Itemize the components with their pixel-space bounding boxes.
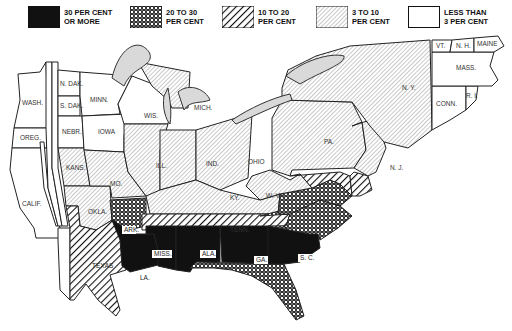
- state-label: IOWA: [98, 128, 116, 135]
- svg-text:ARK.: ARK.: [124, 226, 139, 233]
- svg-text:GA.: GA.: [256, 256, 267, 263]
- state-label: CONN.: [436, 100, 457, 107]
- state-label: R. I.: [466, 92, 478, 99]
- state-label: VT.: [436, 42, 446, 49]
- state-label: MICH.: [194, 104, 213, 111]
- state-label: PA.: [324, 138, 334, 145]
- svg-text:ALA.: ALA.: [202, 250, 216, 257]
- svg-text:LA.: LA.: [140, 274, 150, 281]
- svg-text:TENN.: TENN.: [230, 226, 250, 233]
- state-label: OKLA.: [88, 208, 107, 215]
- state-label: N. H.: [456, 42, 471, 49]
- state-label: N. DAK.: [60, 80, 84, 87]
- state-label: NEBR.: [62, 128, 82, 135]
- state-label: N. J.: [390, 164, 404, 171]
- state-label: N. Y.: [402, 84, 416, 91]
- state-ohio: [196, 114, 252, 190]
- state-pa: [272, 100, 366, 176]
- state-ariz-nmex: [58, 228, 70, 300]
- state-label: OREG.: [20, 134, 41, 141]
- state-wash: [14, 62, 48, 128]
- state-label: KANS.: [66, 164, 86, 171]
- state-label: ILL.: [156, 162, 167, 169]
- state-label: WASH.: [22, 99, 43, 106]
- svg-text:MISS.: MISS.: [154, 250, 172, 257]
- state-label: OHIO: [248, 158, 265, 165]
- svg-text:S. C.: S. C.: [300, 254, 315, 261]
- state-label: MASS.: [456, 64, 476, 71]
- state-fla: [190, 262, 304, 320]
- state-label: IND.: [206, 160, 219, 167]
- state-label: CALIF.: [22, 200, 42, 207]
- state-label: MAINE: [477, 40, 498, 47]
- state-label: KY.: [230, 194, 240, 201]
- state-label: MO.: [110, 180, 122, 187]
- state-conn: [432, 86, 466, 130]
- state-label: W. VA.: [266, 192, 286, 199]
- state-label: MINN.: [90, 96, 109, 103]
- state-label: TEXAS: [92, 262, 114, 269]
- state-label: S. DAK.: [60, 102, 83, 109]
- us-choropleth-map: WASH. OREG. CALIF. N. DAK. S. DAK. NEBR.…: [0, 0, 512, 331]
- state-label: WIS.: [144, 112, 158, 119]
